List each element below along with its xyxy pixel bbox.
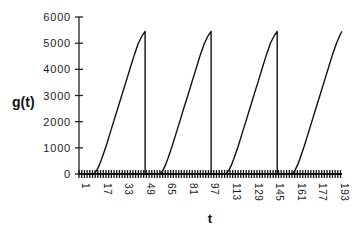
x-tick-label: 145 — [274, 183, 285, 202]
y-tick-label: 6000 — [43, 11, 71, 23]
y-tick-label: 1000 — [43, 142, 71, 154]
y-tick-label: 5000 — [43, 37, 71, 49]
series-line — [79, 31, 342, 174]
x-tick-label: 193 — [339, 183, 350, 202]
x-tick-label: 113 — [231, 183, 242, 201]
x-tick-label: 177 — [317, 183, 328, 202]
x-tick-label: 49 — [145, 183, 156, 195]
x-tick-label: 33 — [123, 183, 134, 195]
x-tick-label: 1 — [80, 183, 91, 189]
chart-canvas: 0100020003000400050006000 11733496581971… — [0, 0, 357, 230]
x-tick-label: 65 — [166, 183, 177, 195]
x-axis-label: t — [208, 211, 213, 226]
y-axis-label: g(t) — [12, 94, 35, 110]
plot-area — [79, 31, 342, 174]
y-tick-label: 3000 — [43, 90, 71, 102]
x-axis: 1173349658197113129145161177193 — [79, 170, 350, 202]
y-axis: 0100020003000400050006000 — [43, 11, 83, 180]
x-tick-label: 97 — [209, 183, 220, 195]
x-tick-label: 17 — [102, 183, 113, 195]
y-tick-label: 0 — [64, 168, 71, 180]
x-tick-label: 129 — [253, 183, 264, 202]
y-tick-label: 2000 — [43, 116, 71, 128]
x-tick-label: 161 — [296, 183, 307, 202]
y-tick-label: 4000 — [43, 63, 71, 75]
x-tick-label: 81 — [188, 183, 199, 195]
